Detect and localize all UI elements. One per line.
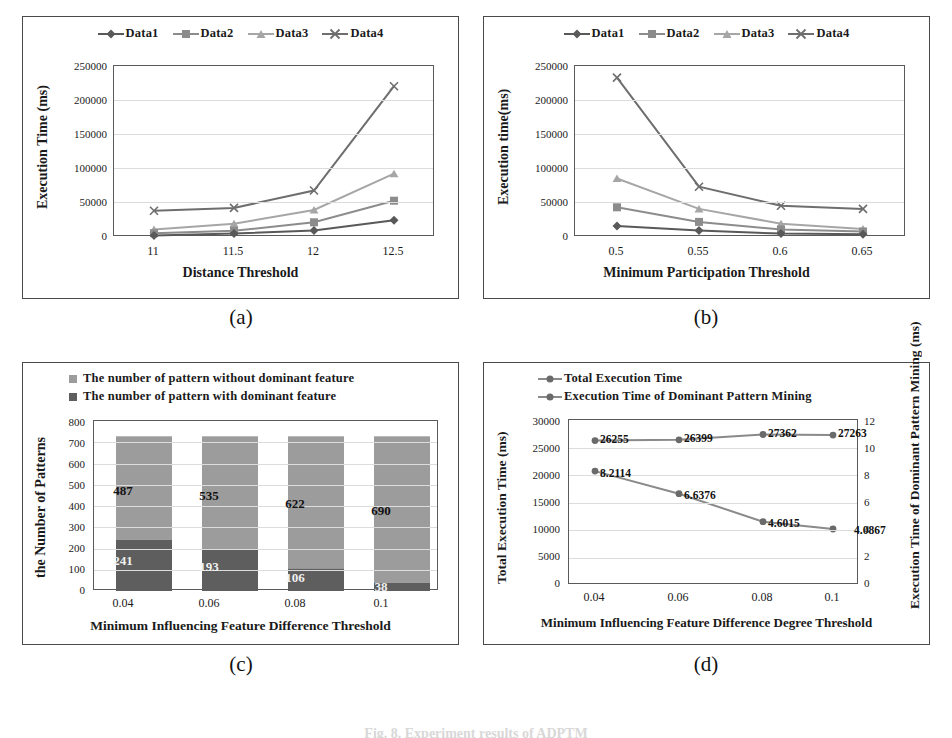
gridline bbox=[569, 448, 857, 449]
y-tick-c-100: 100 bbox=[53, 564, 85, 575]
legend-item-data4: Data4 bbox=[322, 26, 383, 41]
y-tick-b-250000: 250000 bbox=[516, 61, 568, 72]
triangle-icon bbox=[722, 30, 731, 38]
y-tick-b-200000: 200000 bbox=[516, 95, 568, 106]
y-tick-d-right-4: 4 bbox=[864, 524, 886, 535]
legend-chart-d: Total Execution Time Execution Time of D… bbox=[538, 371, 812, 404]
legend-line-dominant-pattern-mining bbox=[538, 396, 562, 398]
bar-value-with-1: 193 bbox=[181, 559, 237, 575]
plot-area-a bbox=[113, 65, 434, 236]
square-icon bbox=[648, 30, 656, 38]
y-axis-title-b: Execution time(ms) bbox=[496, 57, 512, 237]
subfigure-label-d: (d) bbox=[676, 652, 736, 677]
y-tick-d-10000: 10000 bbox=[510, 524, 560, 535]
legend-label-data3: Data3 bbox=[742, 26, 775, 41]
legend-line-data3 bbox=[714, 33, 740, 35]
legend-label-data3: Data3 bbox=[276, 26, 309, 41]
legend-swatch-without-dominant bbox=[69, 375, 77, 383]
point-label-total-3: 27263 bbox=[838, 427, 867, 439]
y-tick-d-right-2: 2 bbox=[864, 551, 886, 562]
y-tick-a-0: 0 bbox=[55, 231, 107, 242]
x-tick-c-3: 0.1 bbox=[351, 597, 411, 609]
cross-icon bbox=[797, 29, 806, 38]
legend-label-data4: Data4 bbox=[350, 26, 383, 41]
x-tick-c-1: 0.06 bbox=[179, 597, 239, 609]
gridline bbox=[569, 530, 857, 531]
bar-value-without-2: 622 bbox=[267, 496, 323, 512]
y-tick-d-15000: 15000 bbox=[510, 497, 560, 508]
legend-label-data1: Data1 bbox=[126, 26, 159, 41]
x-tick-b-2: 0.6 bbox=[755, 245, 805, 257]
x-tick-b-3: 0.65 bbox=[837, 245, 887, 257]
x-axis-title-c: Minimum Influencing Feature Difference T… bbox=[23, 618, 458, 634]
y-tick-c-0: 0 bbox=[53, 585, 85, 596]
legend-line-data2 bbox=[639, 33, 665, 35]
y-tick-a-200000: 200000 bbox=[55, 95, 107, 106]
legend-label-with-dominant: The number of pattern with dominant feat… bbox=[83, 389, 336, 404]
x-axis-title-d: Minimum Influencing Feature Difference D… bbox=[484, 615, 929, 631]
figure-sheet: Data1 Data2 Data3 Data4 Execut bbox=[0, 0, 952, 738]
y-tick-d-25000: 25000 bbox=[510, 443, 560, 454]
legend-line-data1 bbox=[564, 33, 590, 35]
legend-chart-c: The number of pattern without dominant f… bbox=[69, 371, 354, 404]
gridline bbox=[569, 558, 857, 559]
legend-item-data4: Data4 bbox=[788, 26, 849, 41]
chart-panel-c: The number of pattern without dominant f… bbox=[22, 362, 459, 645]
subfigure-label-b: (b) bbox=[676, 305, 736, 330]
y-tick-d-5000: 5000 bbox=[510, 551, 560, 562]
circle-marker-icon bbox=[547, 375, 554, 382]
point-label-total-1: 26399 bbox=[684, 432, 713, 444]
y-tick-d-right-12: 12 bbox=[864, 416, 886, 427]
y-tick-a-100000: 100000 bbox=[55, 163, 107, 174]
subfigure-label-c: (c) bbox=[211, 652, 271, 677]
chart-panel-a: Data1 Data2 Data3 Data4 Execut bbox=[22, 16, 459, 299]
y-tick-b-100000: 100000 bbox=[516, 163, 568, 174]
y-tick-d-20000: 20000 bbox=[510, 470, 560, 481]
gridline bbox=[575, 134, 904, 135]
gridline bbox=[114, 100, 433, 101]
legend-item-with-dominant: The number of pattern with dominant feat… bbox=[69, 389, 336, 404]
y-tick-c-800: 800 bbox=[53, 417, 85, 428]
x-tick-d-0: 0.04 bbox=[569, 591, 619, 603]
gridline bbox=[94, 464, 437, 465]
point-label-mining-1: 6.6376 bbox=[684, 489, 716, 501]
legend-line-data2 bbox=[173, 33, 199, 35]
y-tick-c-200: 200 bbox=[53, 543, 85, 554]
y-tick-b-0: 0 bbox=[516, 231, 568, 242]
bar-value-without-1: 535 bbox=[181, 488, 237, 504]
x-tick-a-3: 12.5 bbox=[368, 245, 418, 257]
gridline bbox=[94, 442, 437, 443]
x-tick-d-2: 0.08 bbox=[737, 591, 787, 603]
point-label-total-2: 27362 bbox=[768, 427, 797, 439]
x-tick-a-0: 11 bbox=[128, 245, 178, 257]
bar-value-with-3: 38 bbox=[353, 579, 409, 595]
cross-icon bbox=[331, 29, 340, 38]
legend-line-data4 bbox=[788, 33, 814, 35]
chart-panel-d: Total Execution Time Execution Time of D… bbox=[483, 362, 930, 645]
subfigure-label-a: (a) bbox=[211, 305, 271, 330]
y-tick-c-600: 600 bbox=[53, 459, 85, 470]
legend-item-without-dominant: The number of pattern without dominant f… bbox=[69, 371, 354, 386]
gridline bbox=[569, 503, 857, 504]
legend-item-total-execution-time: Total Execution Time bbox=[538, 371, 682, 386]
triangle-icon bbox=[256, 30, 265, 38]
gridline bbox=[114, 134, 433, 135]
legend-label-without-dominant: The number of pattern without dominant f… bbox=[83, 371, 354, 386]
series-plot-b bbox=[575, 66, 906, 237]
y-tick-c-400: 400 bbox=[53, 501, 85, 512]
legend-item-dominant-pattern-mining: Execution Time of Dominant Pattern Minin… bbox=[538, 389, 812, 404]
legend-chart-b: Data1 Data2 Data3 Data4 bbox=[484, 26, 929, 41]
y-tick-d-right-0: 0 bbox=[864, 578, 886, 589]
legend-line-data3 bbox=[248, 33, 274, 35]
legend-line-data1 bbox=[98, 33, 124, 35]
legend-line-total-execution-time bbox=[538, 378, 562, 380]
chart-panel-b: Data1 Data2 Data3 Data4 Execut bbox=[483, 16, 930, 299]
y-tick-a-150000: 150000 bbox=[55, 129, 107, 140]
y-tick-d-right-6: 6 bbox=[864, 497, 886, 508]
bar-value-without-0: 487 bbox=[95, 483, 151, 499]
legend-swatch-with-dominant bbox=[69, 393, 77, 401]
y-axis-title-d-right: Execution Time of Dominant Pattern Minin… bbox=[907, 399, 923, 609]
legend-label-data4: Data4 bbox=[816, 26, 849, 41]
y-tick-c-500: 500 bbox=[53, 480, 85, 491]
point-label-mining-0: 8.2114 bbox=[600, 467, 631, 479]
